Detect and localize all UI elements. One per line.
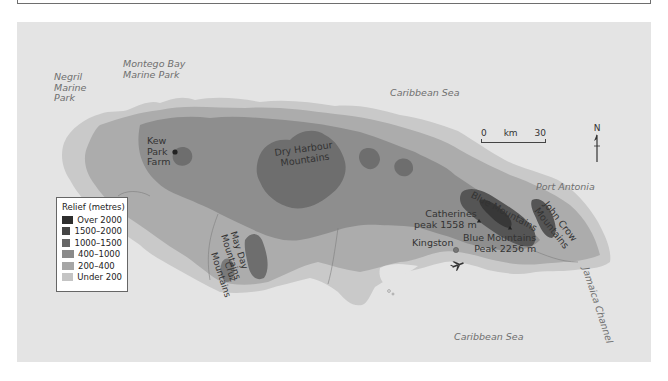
kew-park-farm-marker — [172, 149, 177, 154]
catherines-peak-label: Catherines peak 1558 m — [414, 209, 477, 230]
relief-legend: Relief (metres) Over 2000 1500–2000 1000… — [56, 197, 128, 292]
legend-item: Over 2000 — [62, 214, 122, 226]
kingston-marker — [453, 247, 458, 252]
scale-unit: km — [504, 128, 518, 138]
north-arrow-icon: N — [590, 124, 604, 164]
blue-mountain-peak-label: Blue Mountains Peak 2256 m — [463, 233, 536, 254]
legend-item: 400–1000 — [62, 249, 122, 261]
legend-item: 1000–1500 — [62, 237, 122, 249]
kew-park-farm-label: Kew Park Farm — [147, 136, 170, 168]
kingston-label: Kingston — [412, 238, 453, 249]
north-label: N — [590, 124, 604, 133]
negril-marine-park-label: Negril Marine Park — [54, 72, 86, 104]
legend-item: 200–400 — [62, 260, 122, 272]
scale-bar: 0 km 30 — [481, 128, 546, 143]
caribbean-sea-south-label: Caribbean Sea — [454, 332, 523, 343]
scale-line — [481, 139, 546, 143]
legend-item: Under 200 — [62, 272, 122, 284]
caribbean-sea-north-label: Caribbean Sea — [390, 88, 459, 99]
scale-end: 30 — [535, 128, 546, 138]
legend-item: 1500–2000 — [62, 226, 122, 238]
port-antonia-label: Port Antonia — [536, 182, 595, 193]
legend-title: Relief (metres) — [62, 202, 122, 212]
scale-start: 0 — [481, 128, 487, 138]
montego-bay-marine-park-label: Montego Bay Marine Park — [123, 59, 185, 80]
